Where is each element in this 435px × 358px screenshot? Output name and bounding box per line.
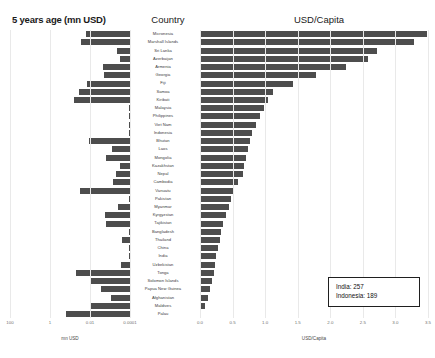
axis-tick: 3.5 [425, 320, 431, 325]
right-bar-row [200, 261, 428, 269]
right-bar-row [200, 96, 428, 104]
right-bar-row [200, 310, 428, 318]
right-bar-row [200, 63, 428, 71]
country-label-row: India [132, 252, 194, 260]
right-bar [200, 229, 221, 235]
right-bar-row [200, 178, 428, 186]
left-bar [117, 48, 130, 54]
country-label: Kiribati [157, 98, 170, 102]
country-label: Bhutan [156, 139, 169, 143]
country-label: Tonga [157, 271, 168, 275]
gridline [233, 30, 234, 318]
left-bar-row [10, 137, 130, 145]
right-bar [200, 253, 216, 259]
gridline [428, 30, 429, 318]
right-bar [200, 146, 248, 152]
left-bar-row [10, 121, 130, 129]
left-bar [122, 237, 130, 243]
country-label: Indonesia [154, 131, 172, 135]
right-bar-row [200, 137, 428, 145]
left-bar-row [10, 195, 130, 203]
right-bar-row [200, 79, 428, 87]
right-bar-row [200, 129, 428, 137]
right-bar [200, 155, 246, 161]
right-bar-row [200, 55, 428, 63]
left-bar-row [10, 46, 130, 54]
left-bar [116, 171, 130, 177]
right-bar [200, 286, 210, 292]
left-bar-row [10, 79, 130, 87]
gridline [363, 30, 364, 318]
country-label: Viet Nam [154, 123, 171, 127]
chart-root: 5 years age (mn USD) Country USD/Capita … [0, 0, 435, 358]
right-panel-title: USD/Capita [210, 14, 428, 25]
right-bar-row [200, 112, 428, 120]
country-label-row: Pakistan [132, 195, 194, 203]
right-bar-row [200, 88, 428, 96]
gridline [90, 30, 91, 318]
right-bar-row [200, 170, 428, 178]
country-label-row: Laos [132, 145, 194, 153]
left-bar [120, 163, 130, 169]
left-bar-row [10, 162, 130, 170]
axis-tick: 0.5 [230, 320, 236, 325]
country-label-row: Solomon Islands [132, 277, 194, 285]
country-label-row: Georgia [132, 71, 194, 79]
left-bar-row [10, 104, 130, 112]
left-bar [87, 81, 130, 87]
country-label: Georgia [156, 73, 171, 77]
country-label: Maldives [155, 304, 172, 308]
right-bar-row [200, 104, 428, 112]
right-bar [200, 212, 226, 218]
right-bar [200, 270, 214, 276]
right-bar-row [200, 195, 428, 203]
country-label-row: Samoa [132, 88, 194, 96]
right-bar [200, 188, 234, 194]
country-label-row: Papua New Guinea [132, 285, 194, 293]
country-label: Malaysia [155, 106, 172, 110]
left-bar [90, 278, 130, 284]
axis-tick: 2.5 [360, 320, 366, 325]
country-label-row: Bangladesh [132, 228, 194, 236]
axis-tick: 1.0 [262, 320, 268, 325]
right-bar-row [200, 145, 428, 153]
country-label-row: Tonga [132, 269, 194, 277]
right-bar [200, 295, 208, 301]
left-bar-row [10, 277, 130, 285]
country-label-row: Azerbaijan [132, 55, 194, 63]
right-bar-row [200, 154, 428, 162]
annotation-line-india: India: 257 [336, 282, 419, 291]
country-label: Laos [158, 147, 167, 151]
right-bar-row [200, 236, 428, 244]
country-label-row: Philippines [132, 112, 194, 120]
left-bar-row [10, 294, 130, 302]
country-label: Kyrgyzstan [153, 213, 174, 217]
left-bar [104, 72, 130, 78]
country-label-row: Kazakhstan [132, 162, 194, 170]
country-label: Philippines [153, 114, 173, 118]
country-label-row: Maldives [132, 302, 194, 310]
left-bar [91, 303, 130, 309]
right-bar [200, 97, 268, 103]
right-bar [200, 221, 223, 227]
left-bar [106, 155, 130, 161]
right-bar [200, 278, 212, 284]
country-label: Micronesia [153, 32, 173, 36]
right-bar [200, 130, 252, 136]
right-bar [200, 171, 243, 177]
left-bar [80, 188, 130, 194]
left-bar [81, 39, 130, 45]
right-bar [200, 48, 377, 54]
country-label: Vanuatu [155, 189, 170, 193]
country-label-row: Fiji [132, 79, 194, 87]
right-bar [200, 56, 368, 62]
left-bar-row [10, 154, 130, 162]
right-bar [200, 237, 220, 243]
right-bar-row [200, 162, 428, 170]
right-bar [200, 31, 427, 37]
country-label: Samoa [156, 90, 169, 94]
axis-tick: 0.0001 [123, 320, 136, 325]
right-bar-row [200, 252, 428, 260]
axis-tick: 2.0 [327, 320, 333, 325]
left-bar [89, 138, 130, 144]
